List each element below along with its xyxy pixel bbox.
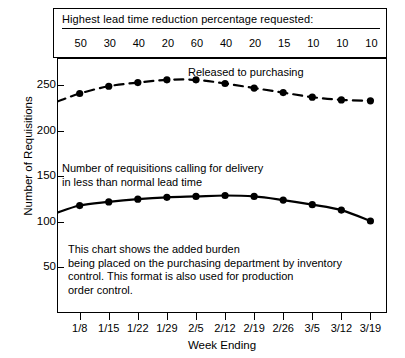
lead-time-value-2-12: 40 — [213, 37, 239, 49]
x-tick-mark-1-15 — [109, 313, 110, 320]
data-point — [221, 80, 228, 87]
x-axis-title: Week Ending — [57, 339, 387, 351]
data-point — [367, 217, 374, 224]
data-point — [221, 192, 228, 199]
annotation-note-line-3: control. This format is also used for pr… — [68, 270, 342, 284]
lead-time-value-1-8: 50 — [68, 37, 94, 49]
x-tick-mark-2-26 — [283, 313, 284, 320]
data-point — [280, 89, 287, 96]
x-tick-mark-2-12 — [225, 313, 226, 320]
y-tick-mark-100 — [57, 222, 64, 223]
data-point — [309, 94, 316, 101]
data-point — [367, 97, 374, 104]
data-point — [338, 96, 345, 103]
annotation-note-line-2: being placed on the purchasing departmen… — [68, 257, 342, 271]
x-tick-mark-1-22 — [138, 313, 139, 320]
lead-time-values-row: 5030402060402015101010 — [54, 34, 388, 56]
x-tick-mark-1-29 — [167, 313, 168, 320]
lead-time-value-2-26: 15 — [271, 37, 297, 49]
lead-time-value-1-22: 40 — [126, 37, 152, 49]
data-point — [163, 76, 170, 83]
data-point — [134, 79, 141, 86]
x-tick-mark-2-19 — [254, 313, 255, 320]
y-tick-label-50: 50 — [22, 260, 56, 272]
y-tick-mark-50 — [57, 267, 64, 268]
y-axis-ticks: 50100150200250 — [12, 58, 56, 313]
series-line — [57, 79, 370, 101]
lead-time-header-box: Highest lead time reduction percentage r… — [53, 8, 387, 58]
y-tick-mark-250 — [57, 85, 64, 86]
lead-time-value-3-19: 10 — [358, 37, 384, 49]
data-point — [338, 206, 345, 213]
data-point — [163, 194, 170, 201]
chart-root: Highest lead time reduction percentage r… — [0, 0, 405, 358]
annotation-requisitions-line-1: Number of requisitions calling for deliv… — [62, 162, 263, 176]
lead-time-value-3-5: 10 — [300, 37, 326, 49]
series-released-to-purchasing — [57, 76, 374, 104]
annotation-note: This chart shows the added burden being … — [68, 243, 342, 297]
x-tick-mark-3-12 — [341, 313, 342, 320]
x-tick-mark-3-19 — [370, 313, 371, 320]
x-tick-mark-2-5 — [196, 313, 197, 320]
series-short-lead-time-requisitions — [57, 192, 374, 225]
annotation-note-line-4: order control. — [68, 284, 342, 298]
data-point — [309, 201, 316, 208]
lead-time-value-1-15: 30 — [97, 37, 123, 49]
data-point — [251, 84, 258, 91]
data-point — [251, 193, 258, 200]
x-tick-mark-1-8 — [80, 313, 81, 320]
lead-time-header-title: Highest lead time reduction percentage r… — [62, 13, 380, 29]
data-point — [280, 196, 287, 203]
annotation-requisitions: Number of requisitions calling for deliv… — [62, 162, 263, 189]
annotation-note-line-1: This chart shows the added burden — [68, 243, 342, 257]
data-point — [134, 196, 141, 203]
x-tick-mark-3-5 — [312, 313, 313, 320]
data-point — [192, 193, 199, 200]
data-point — [76, 202, 83, 209]
data-point — [76, 90, 83, 97]
y-tick-mark-200 — [57, 131, 64, 132]
annotation-released-to-purchasing: Released to purchasing — [188, 66, 304, 80]
data-point — [105, 198, 112, 205]
series-line — [57, 196, 370, 222]
x-tick-label-3-19: 3/19 — [353, 322, 387, 334]
y-axis-title: Number of Requisitions — [22, 76, 34, 236]
data-point — [105, 83, 112, 90]
lead-time-value-2-19: 20 — [242, 37, 268, 49]
lead-time-value-2-5: 60 — [184, 37, 210, 49]
annotation-requisitions-line-2: in less than normal lead time — [62, 176, 263, 190]
lead-time-value-3-12: 10 — [329, 37, 355, 49]
lead-time-value-1-29: 20 — [155, 37, 181, 49]
